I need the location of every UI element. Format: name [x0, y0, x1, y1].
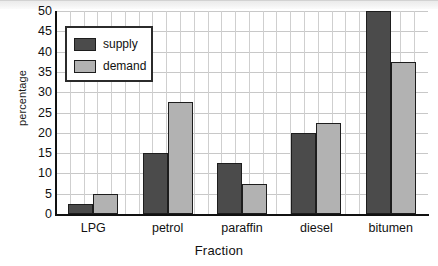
- y-tick-label: 45: [26, 25, 52, 38]
- legend-item-supply: supply: [74, 33, 145, 55]
- y-tick-label: 40: [26, 45, 52, 58]
- bar-petrol-supply: [143, 153, 168, 214]
- x-tick-label: petrol: [152, 221, 183, 235]
- bar-bitumen-supply: [366, 11, 391, 214]
- bar-LPG-supply: [68, 204, 93, 214]
- legend-label-supply: supply: [103, 38, 138, 50]
- bar-chart: percentage 05101520253035404550 supply d…: [0, 0, 438, 266]
- bar-LPG-demand: [93, 194, 118, 214]
- x-tick-label: LPG: [81, 221, 106, 235]
- legend: supply demand: [65, 26, 153, 82]
- bar-diesel-demand: [316, 123, 341, 214]
- legend-swatch-supply-icon: [74, 38, 96, 51]
- bar-paraffin-supply: [217, 163, 242, 214]
- x-axis-tick-labels: LPGpetrolparaffindieselbitumen: [56, 221, 428, 239]
- y-tick-label: 20: [26, 127, 52, 140]
- bar-bitumen-demand: [391, 62, 416, 214]
- legend-label-demand: demand: [103, 60, 146, 72]
- y-tick-label: 10: [26, 167, 52, 180]
- y-tick-label: 15: [26, 147, 52, 160]
- y-axis-tick-labels: 05101520253035404550: [26, 11, 52, 214]
- bar-paraffin-demand: [242, 184, 267, 214]
- x-tick-label: bitumen: [369, 221, 413, 235]
- y-tick-label: 5: [26, 187, 52, 200]
- x-axis-title: Fraction: [0, 243, 438, 258]
- y-axis-line: [55, 11, 57, 215]
- x-tick-label: diesel: [300, 221, 333, 235]
- x-tick-label: paraffin: [221, 221, 262, 235]
- y-tick-label: 25: [26, 106, 52, 119]
- y-tick-label: 35: [26, 66, 52, 79]
- bar-petrol-demand: [168, 102, 193, 214]
- y-tick-label: 0: [26, 208, 52, 221]
- y-tick-label: 50: [26, 5, 52, 18]
- legend-item-demand: demand: [74, 55, 145, 77]
- bar-diesel-supply: [291, 133, 316, 214]
- y-tick-label: 30: [26, 86, 52, 99]
- legend-swatch-demand-icon: [74, 60, 96, 73]
- x-axis-line: [55, 214, 429, 216]
